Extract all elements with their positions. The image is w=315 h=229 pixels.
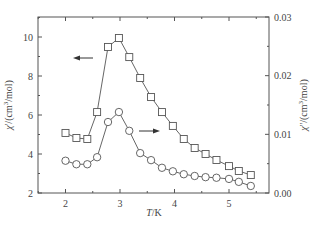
- series-chi-double-prime: [62, 108, 255, 189]
- plot-frame: [38, 17, 269, 193]
- square-marker: [202, 151, 209, 158]
- chi-prime-line: [66, 38, 251, 175]
- circle-marker: [84, 161, 91, 168]
- circle-marker: [191, 172, 198, 179]
- circle-marker: [225, 175, 232, 182]
- square-marker: [247, 172, 254, 179]
- chart-canvas: 23452468100.000.010.020.03 T/K χ'/(cm3/m…: [0, 0, 315, 229]
- circle-marker: [213, 174, 220, 181]
- y-axis-left-title: χ'/(cm3/mol): [2, 80, 15, 131]
- circle-marker: [147, 156, 154, 163]
- circle-marker: [93, 154, 100, 161]
- square-marker: [137, 74, 144, 81]
- square-marker: [235, 167, 242, 174]
- circle-marker: [73, 161, 80, 168]
- circle-marker: [235, 178, 242, 185]
- square-marker: [73, 135, 80, 142]
- y-left-tick-label: 6: [28, 110, 33, 121]
- circle-marker: [247, 182, 254, 189]
- y-left-tick-label: 8: [28, 71, 33, 82]
- y-right-tick-label: 0.01: [274, 129, 292, 140]
- square-marker: [191, 144, 198, 151]
- x-axis-title: T/K: [146, 207, 162, 218]
- left-arrowhead-icon: [73, 56, 80, 61]
- square-marker: [169, 122, 176, 129]
- axis-indicator-arrows: [73, 56, 160, 134]
- circle-marker: [169, 168, 176, 175]
- square-marker: [148, 94, 155, 101]
- y-axis-right-title: χ''/(cm3/mol): [297, 79, 310, 132]
- x-tick-label: 4: [172, 198, 177, 209]
- x-tick-label: 3: [118, 198, 123, 209]
- x-tick-label: 2: [63, 198, 68, 209]
- circle-marker: [104, 118, 111, 125]
- square-marker: [126, 54, 133, 61]
- y-left-tick-label: 2: [28, 188, 33, 199]
- square-marker: [84, 135, 91, 142]
- circle-marker: [180, 171, 187, 178]
- circle-marker: [202, 173, 209, 180]
- y-left-tick-label: 10: [23, 32, 33, 43]
- right-arrowhead-icon: [153, 129, 160, 134]
- y-right-tick-label: 0.03: [274, 12, 292, 23]
- x-tick-label: 5: [227, 198, 232, 209]
- y-right-tick-label: 0.00: [274, 188, 292, 199]
- circle-marker: [62, 157, 69, 164]
- circle-marker: [115, 108, 122, 115]
- circle-marker: [158, 164, 165, 171]
- square-marker: [94, 109, 101, 116]
- square-marker: [115, 34, 122, 41]
- square-marker: [213, 157, 220, 164]
- y-left-tick-label: 4: [28, 149, 33, 160]
- square-marker: [180, 135, 187, 142]
- square-marker: [62, 129, 69, 136]
- square-marker: [105, 43, 112, 50]
- axes: 23452468100.000.010.020.03: [23, 12, 292, 210]
- y-right-tick-label: 0.02: [274, 70, 292, 81]
- circle-marker: [136, 149, 143, 156]
- circle-marker: [126, 127, 133, 134]
- square-marker: [158, 109, 165, 116]
- square-marker: [226, 163, 233, 170]
- series-chi-prime: [62, 34, 254, 178]
